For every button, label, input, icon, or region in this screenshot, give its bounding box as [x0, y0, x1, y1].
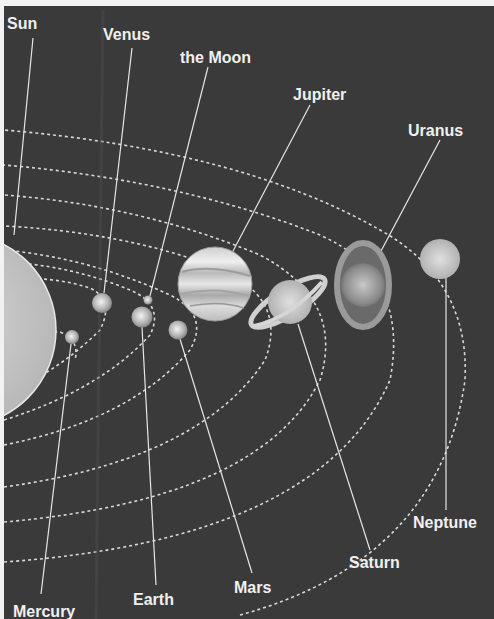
jupiter — [178, 247, 252, 321]
mars — [169, 321, 188, 340]
saturn — [245, 268, 332, 336]
mercury — [65, 330, 79, 344]
label-earth: Earth — [133, 592, 174, 608]
sun — [4, 234, 56, 426]
label-neptune: Neptune — [413, 515, 477, 531]
label-mercury: Mercury — [13, 604, 75, 619]
label-mars: Mars — [234, 580, 271, 596]
label-sun: Sun — [7, 16, 37, 32]
label-moon: the Moon — [180, 50, 251, 66]
label-jupiter: Jupiter — [293, 87, 346, 103]
uranus — [337, 243, 389, 327]
solar-system-diagram: Sun Venus the Moon Jupiter Uranus Neptun… — [4, 6, 494, 619]
neptune — [420, 239, 460, 279]
moon — [144, 296, 153, 305]
orbit-lines — [4, 130, 465, 615]
label-venus: Venus — [103, 27, 150, 43]
venus — [92, 293, 112, 313]
earth — [132, 307, 153, 328]
label-uranus: Uranus — [408, 123, 463, 139]
label-saturn: Saturn — [349, 555, 400, 571]
